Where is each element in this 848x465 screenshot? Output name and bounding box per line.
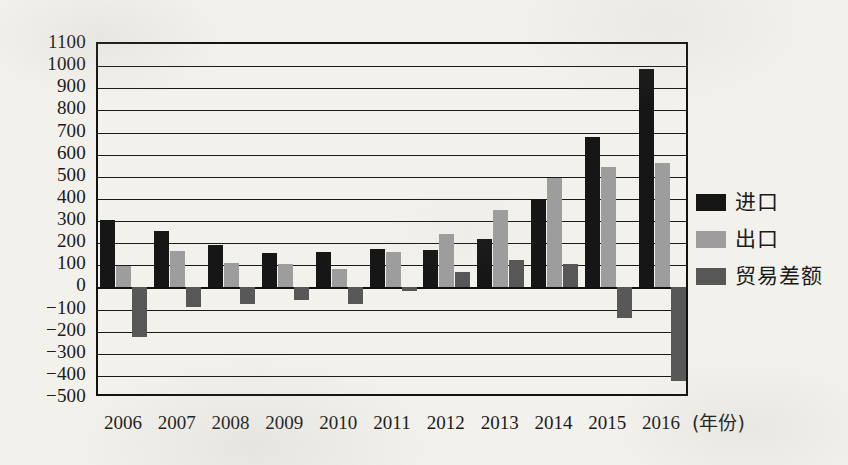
x-axis-unit-label: (年份) — [692, 412, 745, 434]
y-axis-tick-label: 200 — [8, 231, 86, 250]
y-axis-tick-label: 100 — [8, 253, 86, 272]
legend-item: 出口 — [696, 223, 844, 255]
y-axis-tick-label: 800 — [8, 98, 86, 117]
bar-贸易差额-2014 — [563, 264, 578, 287]
bar-贸易差额-2016 — [671, 287, 686, 381]
y-axis-tick-label: 600 — [8, 143, 86, 162]
bar-进口-2016 — [639, 69, 654, 287]
y-axis-tick-label: 700 — [8, 121, 86, 140]
bar-贸易差额-2013 — [509, 260, 524, 288]
chart-legend: 进口出口贸易差额 — [696, 186, 844, 297]
y-axis-tick-label: 300 — [8, 209, 86, 228]
bar-贸易差额-2011 — [402, 287, 417, 290]
bars-layer — [98, 44, 686, 394]
bar-进口-2007 — [154, 231, 169, 287]
bar-进口-2008 — [208, 245, 223, 287]
x-axis-tick-label: 2011 — [373, 412, 410, 434]
bar-贸易差额-2010 — [348, 287, 363, 304]
legend-item-label: 贸易差额 — [735, 266, 823, 287]
y-axis-tick-label: 500 — [8, 165, 86, 184]
y-axis-tick-label: 0 — [8, 275, 86, 294]
bar-进口-2012 — [423, 250, 438, 288]
y-axis-tick-label: 900 — [8, 76, 86, 95]
legend-item-label: 进口 — [735, 192, 779, 213]
y-axis-tick-label: 1100 — [8, 32, 86, 51]
bar-chart: 110010009008007006005004003002001000−100… — [0, 0, 848, 465]
bar-出口-2007 — [170, 251, 185, 288]
y-axis-tick-label: −400 — [8, 364, 86, 383]
bar-出口-2011 — [386, 252, 401, 287]
bar-进口-2011 — [370, 249, 385, 288]
bar-出口-2006 — [116, 266, 131, 287]
legend-item: 进口 — [696, 186, 844, 218]
x-axis-tick-label: 2007 — [158, 412, 196, 434]
x-axis-tick-label: 2016 — [642, 412, 680, 434]
x-axis-tick-label: 2006 — [104, 412, 142, 434]
x-axis-tick-label: 2014 — [534, 412, 572, 434]
bar-进口-2009 — [262, 253, 277, 287]
x-axis-tick-labels: 2006200720082009201020112012201320142015… — [96, 412, 688, 442]
bar-进口-2010 — [316, 252, 331, 287]
bar-贸易差额-2007 — [186, 287, 201, 307]
bar-出口-2009 — [278, 264, 293, 287]
bar-进口-2013 — [477, 239, 492, 288]
y-axis-tick-label: −500 — [8, 386, 86, 405]
y-axis-tick-label: 400 — [8, 187, 86, 206]
bar-出口-2010 — [332, 269, 347, 288]
legend-item: 贸易差额 — [696, 260, 844, 292]
y-axis-tick-label: −100 — [8, 298, 86, 317]
legend-swatch-icon — [696, 231, 726, 248]
bar-进口-2006 — [100, 220, 115, 287]
bar-进口-2015 — [585, 137, 600, 287]
x-axis-tick-label: 2008 — [212, 412, 250, 434]
legend-swatch-icon — [696, 268, 726, 285]
legend-item-label: 出口 — [735, 229, 779, 250]
bar-贸易差额-2015 — [617, 287, 632, 318]
x-axis-tick-label: 2010 — [319, 412, 357, 434]
bar-贸易差额-2008 — [240, 287, 255, 304]
y-axis-tick-labels: 110010009008007006005004003002001000−100… — [8, 0, 86, 465]
legend-swatch-icon — [696, 194, 726, 211]
bar-出口-2012 — [439, 234, 454, 287]
bar-出口-2013 — [493, 210, 508, 287]
bar-进口-2014 — [531, 199, 546, 288]
bar-出口-2016 — [655, 163, 670, 287]
bar-贸易差额-2009 — [294, 287, 309, 299]
x-axis-tick-label: 2015 — [588, 412, 626, 434]
bar-出口-2015 — [601, 167, 616, 288]
x-axis-tick-label: 2012 — [427, 412, 465, 434]
y-axis-tick-label: −200 — [8, 320, 86, 339]
bar-贸易差额-2006 — [132, 287, 147, 337]
y-axis-tick-label: −300 — [8, 342, 86, 361]
bar-出口-2008 — [224, 263, 239, 287]
plot-area — [96, 42, 688, 396]
bar-贸易差额-2012 — [455, 272, 470, 287]
y-axis-tick-label: 1000 — [8, 54, 86, 73]
x-axis-tick-label: 2009 — [265, 412, 303, 434]
x-axis-tick-label: 2013 — [481, 412, 519, 434]
bar-出口-2014 — [547, 178, 562, 288]
